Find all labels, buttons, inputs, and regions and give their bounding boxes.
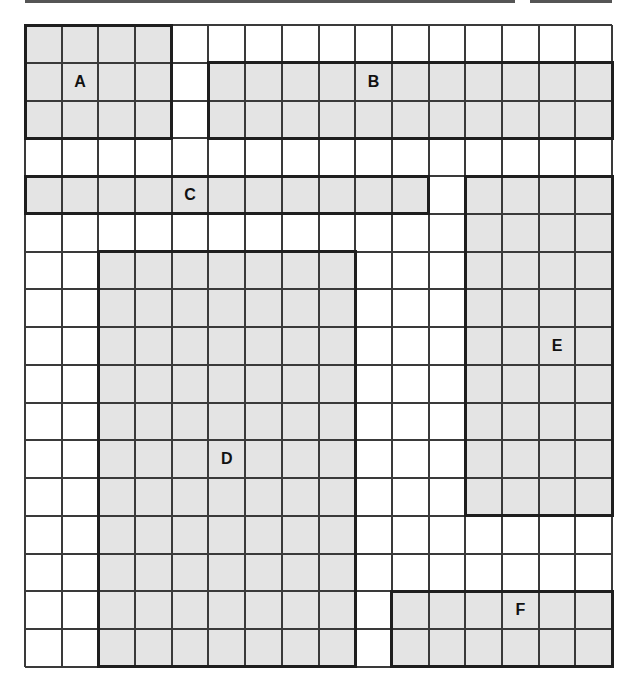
region-d-label: D — [221, 450, 233, 468]
region-b-label: B — [368, 73, 380, 91]
top-rule-left — [25, 0, 515, 3]
region-b-border — [207, 61, 614, 140]
region-a-label: A — [74, 73, 86, 91]
region-e-label: E — [552, 337, 563, 355]
region-c-label: C — [184, 186, 196, 204]
grid-diagram: ABCDEF — [25, 25, 612, 667]
region-c-border — [24, 175, 431, 216]
region-a-border — [24, 24, 174, 140]
region-f-label: F — [515, 601, 525, 619]
region-f-border — [390, 590, 613, 669]
region-e-border — [464, 175, 614, 518]
top-rule-right — [530, 0, 612, 3]
